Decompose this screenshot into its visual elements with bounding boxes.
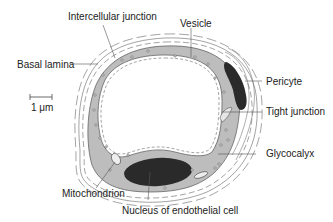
scale-bar-label: 1 μm [31, 102, 53, 113]
label-intercellular-junction: Intercellular junction [68, 11, 157, 22]
label-vesicle: Vesicle [180, 18, 212, 29]
label-nucleus: Nucleus of endothelial cell [122, 205, 238, 216]
label-pericyte: Pericyte [266, 76, 302, 87]
scale-bar [30, 94, 52, 100]
label-tight-junction: Tight junction [266, 106, 325, 117]
label-mitochondrion: Mitochondrion [62, 188, 125, 199]
label-basal-lamina: Basal lamina [17, 59, 74, 70]
glycocalyx [101, 58, 219, 154]
label-glycocalyx: Glycocalyx [266, 148, 314, 159]
